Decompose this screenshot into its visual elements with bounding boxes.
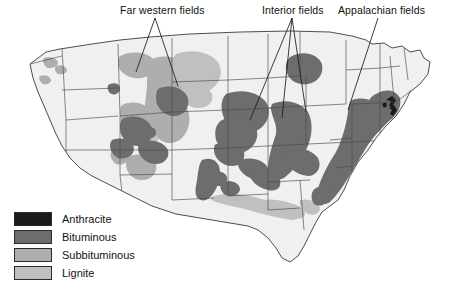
legend-swatch-subbituminous	[14, 248, 52, 262]
map-legend: Anthracite Bituminous Subbituminous Lign…	[14, 210, 194, 282]
legend-swatch-bituminous	[14, 230, 52, 244]
legend-item-anthracite: Anthracite	[14, 210, 194, 228]
callout-label-interior: Interior fields	[262, 4, 324, 16]
legend-label-lignite: Lignite	[62, 266, 94, 280]
callout-label-appalachian: Appalachian fields	[338, 4, 425, 16]
legend-item-bituminous: Bituminous	[14, 228, 194, 246]
coal-fields-map-figure: Far western fields Interior fields Appal…	[0, 0, 449, 296]
legend-item-subbituminous: Subbituminous	[14, 246, 194, 264]
legend-label-subbituminous: Subbituminous	[62, 248, 135, 262]
legend-swatch-anthracite	[14, 212, 52, 226]
legend-item-lignite: Lignite	[14, 264, 194, 282]
legend-label-bituminous: Bituminous	[62, 230, 116, 244]
callout-label-far-western: Far western fields	[120, 4, 205, 16]
legend-swatch-lignite	[14, 266, 52, 280]
legend-label-anthracite: Anthracite	[62, 212, 112, 226]
